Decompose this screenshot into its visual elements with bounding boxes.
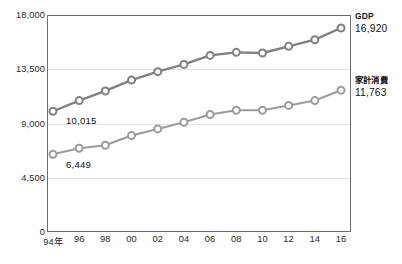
data-point-marker	[102, 142, 109, 149]
data-point-marker	[259, 49, 266, 56]
data-point-marker	[128, 132, 135, 139]
series-name-consumption: 家計消費	[355, 73, 388, 85]
data-point-marker	[180, 119, 187, 126]
data-point-marker	[76, 97, 83, 104]
series-name-gdp: GDP	[355, 11, 387, 21]
series-label-consumption: 家計消費 11,763	[355, 73, 388, 98]
data-point-marker	[285, 43, 292, 50]
data-point-marker	[180, 61, 187, 68]
series-value-consumption: 11,763	[355, 87, 388, 98]
data-point-marker	[338, 25, 345, 32]
series-value-gdp: 16,920	[355, 23, 387, 34]
data-point-marker	[50, 151, 57, 158]
annotation-consumption-start: 6,449	[66, 159, 91, 170]
series-gdp	[50, 25, 345, 115]
annotation-gdp-start: 10,015	[66, 115, 97, 126]
series-label-gdp: GDP 16,920	[355, 11, 387, 34]
chart-container: 04,5009,00013,50018,000 94年9698000204060…	[0, 0, 402, 264]
data-point-marker	[76, 145, 83, 152]
data-point-marker	[233, 49, 240, 56]
data-point-marker	[207, 111, 214, 118]
data-point-marker	[128, 77, 135, 84]
data-point-marker	[154, 68, 161, 75]
data-point-marker	[285, 102, 292, 109]
data-point-marker	[259, 107, 266, 114]
data-point-marker	[154, 125, 161, 132]
data-point-marker	[311, 36, 318, 43]
data-point-marker	[311, 97, 318, 104]
data-point-marker	[338, 87, 345, 94]
data-point-marker	[50, 108, 57, 115]
data-point-marker	[233, 107, 240, 114]
chart-svg	[0, 0, 402, 264]
data-point-marker	[102, 87, 109, 94]
data-point-marker	[207, 52, 214, 59]
series-line	[53, 28, 341, 111]
